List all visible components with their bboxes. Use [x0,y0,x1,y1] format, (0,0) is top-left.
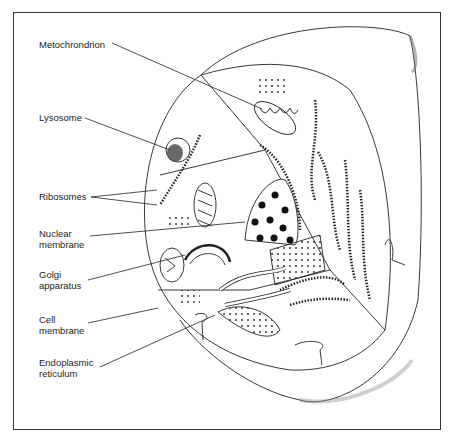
mitochondrion-2 [194,183,216,227]
label-endoplasmic-reticulum: Endoplasmic reticulum [39,358,93,379]
mitochondrion [249,95,301,141]
label-mitochondrion: Metochrondrion [39,40,105,51]
label-nuclear-membrane: Nuclear membrane [39,229,84,250]
label-lysosome: Lysosome [39,113,82,124]
nucleus [245,179,298,245]
label-golgi-apparatus: Golgi apparatus [39,270,81,291]
label-ribosomes: Ribosomes [39,192,87,203]
label-cell-membrane: Cell membrane [39,315,84,336]
